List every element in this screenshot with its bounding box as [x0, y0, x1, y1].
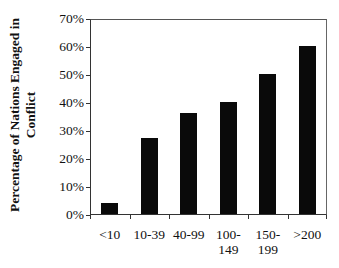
y-tick-label: 30%: [44, 124, 84, 138]
x-tick-mark: [90, 215, 91, 219]
y-tick-mark: [86, 131, 90, 132]
x-tick-label: 100-149: [206, 227, 250, 257]
y-axis-title-container: Percentage of Nations Engaged in Conflic…: [3, 10, 43, 220]
y-tick-mark: [86, 103, 90, 104]
x-tick-label: <10: [88, 227, 132, 242]
y-tick-mark: [86, 187, 90, 188]
y-axis-title: Percentage of Nations Engaged in Conflic…: [7, 10, 39, 220]
y-tick-label: 70%: [44, 12, 84, 26]
bar-40-99: [180, 113, 197, 214]
y-tick-label: 20%: [44, 152, 84, 166]
bar-100-149: [220, 102, 237, 214]
y-tick-label: 10%: [44, 180, 84, 194]
y-tick-mark: [86, 159, 90, 160]
x-tick-mark: [326, 215, 327, 219]
y-tick-label: 50%: [44, 68, 84, 82]
bar->200: [299, 46, 316, 214]
y-tick-label: 60%: [44, 40, 84, 54]
x-tick-mark: [130, 215, 131, 219]
x-tick-mark: [248, 215, 249, 219]
x-tick-mark: [209, 215, 210, 219]
x-tick-mark: [288, 215, 289, 219]
bar-<10: [101, 203, 118, 214]
y-axis-title-line-1: Percentage of Nations Engaged in: [7, 10, 23, 220]
x-tick-label: 150-199: [246, 227, 290, 257]
y-tick-label: 40%: [44, 96, 84, 110]
bar-10-39: [141, 138, 158, 214]
x-tick-label: 40-99: [167, 227, 211, 242]
bar-chart: Percentage of Nations Engaged in Conflic…: [0, 0, 339, 268]
x-tick-label: >200: [285, 227, 329, 242]
plot-area: [90, 19, 327, 215]
y-axis-title-line-2: Conflict: [23, 10, 39, 220]
y-tick-mark: [86, 47, 90, 48]
x-tick-label: 10-39: [127, 227, 171, 242]
y-tick-label: 0%: [44, 208, 84, 222]
x-tick-mark: [169, 215, 170, 219]
y-tick-mark: [86, 19, 90, 20]
bar-150-199: [259, 74, 276, 214]
y-tick-mark: [86, 75, 90, 76]
